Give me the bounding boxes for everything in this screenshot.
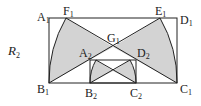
point-label-C2: C2 (130, 86, 142, 101)
figure-label: R2 (7, 43, 20, 60)
point-label-D1: D1 (180, 13, 193, 28)
point-label-B1: B1 (37, 82, 49, 97)
point-label-E1: E1 (155, 4, 166, 19)
point-label-B2: B2 (85, 86, 97, 101)
point-label-C1: C1 (180, 82, 192, 97)
point-label-G1: G1 (107, 31, 120, 46)
point-label-A1: A1 (37, 10, 50, 25)
point-label-F1: F1 (63, 4, 74, 19)
geometry-figure: R2 A1 F1 E1 D1 G1 A2 D2 B1 B2 C2 C1 (0, 0, 201, 106)
